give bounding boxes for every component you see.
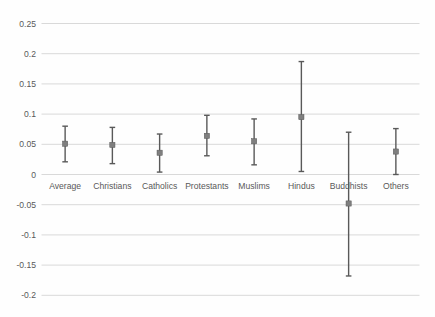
y-tick-label: 0.15 [19,79,36,89]
error-bar-group [62,126,68,162]
y-tick-label: 0.1 [24,109,36,119]
error-bar-group [110,127,116,163]
gridlines [42,24,420,296]
error-bar-group [346,132,352,276]
category-label: Catholics [142,181,177,191]
x-axis-category-labels: AverageChristiansCatholicsProtestantsMus… [49,181,409,191]
error-bar-group [393,129,399,175]
category-label: Muslims [238,181,270,191]
error-bar-group [299,62,305,172]
error-bar-group [157,134,163,172]
data-point-marker [157,150,162,155]
y-tick-label: 0.25 [19,19,36,29]
y-tick-label: -0.2 [21,290,36,300]
category-label: Others [383,181,409,191]
data-point-marker [110,142,115,147]
data-point-marker [252,139,257,144]
category-label: Buddhists [330,181,368,191]
category-label: Christians [93,181,131,191]
data-point-marker [346,201,351,206]
y-tick-label: -0.15 [16,260,36,270]
error-bar-chart: 0.250.20.150.10.050-0.05-0.1-0.15-0.2 Av… [0,0,435,317]
data-point-marker [204,133,209,138]
y-tick-label: 0.2 [24,49,36,59]
y-tick-label: 0 [31,170,36,180]
y-axis-tick-labels: 0.250.20.150.10.050-0.05-0.1-0.15-0.2 [16,19,36,301]
y-tick-label: -0.05 [16,200,36,210]
data-point-marker [63,141,68,146]
category-label: Average [49,181,81,191]
y-tick-label: -0.1 [21,230,36,240]
data-point-marker [299,115,304,120]
category-label: Protestants [185,181,228,191]
error-bar-group [251,119,257,165]
category-label: Hindus [288,181,315,191]
chart-screenshot: 0.250.20.150.10.050-0.05-0.1-0.15-0.2 Av… [0,0,435,317]
error-bar-group [204,115,210,155]
data-point-marker [393,149,398,154]
error-bars [62,62,398,276]
y-tick-label: 0.05 [19,139,36,149]
